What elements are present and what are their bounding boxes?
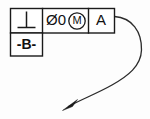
leader-arrowhead-icon	[63, 100, 78, 111]
tolerance-value: Ø0	[46, 11, 66, 28]
datum-feature-label: -B-	[17, 36, 37, 52]
gdt-callout-drawing: Ø0 M A -B-	[0, 0, 150, 119]
datum-feature-symbol: -B-	[11, 33, 43, 56]
mmc-modifier-letter: M	[72, 14, 81, 26]
cell-primary-datum-reference: A	[96, 11, 106, 28]
technical-drawing-canvas: Ø0 M A -B-	[0, 0, 150, 119]
datum-reference-letter: A	[96, 11, 106, 28]
